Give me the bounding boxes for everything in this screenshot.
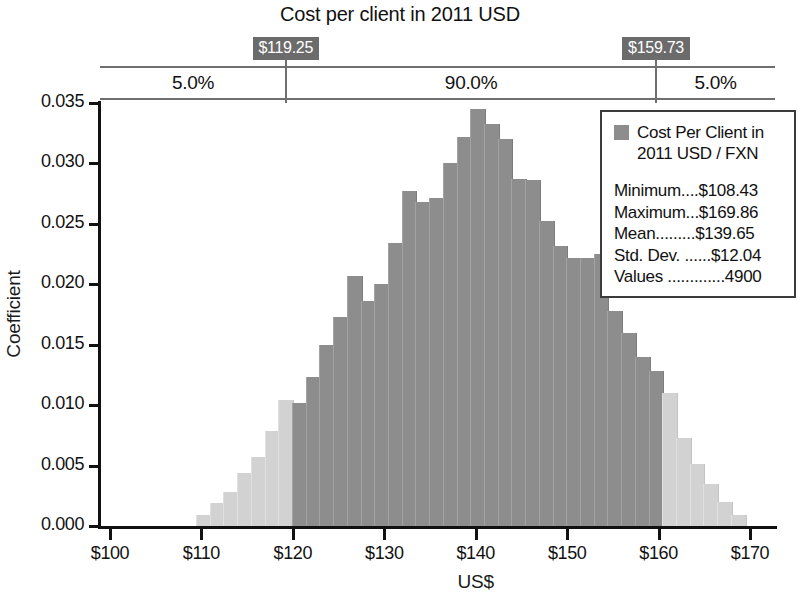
- legend-stat-row: Mean.........$139.65: [614, 223, 784, 245]
- y-axis-tick: [89, 404, 99, 407]
- x-axis-tick: [292, 529, 295, 540]
- x-axis-tick-label: $150: [522, 543, 612, 564]
- x-axis-tick-label: $170: [705, 543, 795, 564]
- x-axis-tick: [658, 529, 661, 540]
- y-axis-tick-label: 0.030: [0, 151, 84, 172]
- y-axis-tick: [89, 525, 99, 528]
- percentile-band-left: 5.0%: [100, 68, 286, 98]
- legend-stat-row: Maximum...$169.86: [614, 202, 784, 224]
- x-axis-tick-label: $110: [156, 543, 246, 564]
- percentile-band: 5.0% 90.0% 5.0%: [100, 66, 775, 100]
- x-axis-tick-label: $130: [339, 543, 429, 564]
- x-axis-tick-label: $120: [248, 543, 338, 564]
- y-axis-tick-label: 0.035: [0, 91, 84, 112]
- legend: Cost Per Client in 2011 USD / FXN Minimu…: [600, 110, 796, 298]
- y-axis-tick-label: 0.010: [0, 393, 84, 414]
- histogram-chart: Cost per client in 2011 USD $119.25 $159…: [0, 0, 800, 597]
- x-axis-label: US$: [416, 571, 536, 593]
- y-axis-tick: [89, 162, 99, 165]
- legend-series-entry: Cost Per Client in 2011 USD / FXN: [614, 122, 784, 164]
- legend-stat-row: Values .............4900: [614, 266, 784, 288]
- histogram-bar: [731, 515, 747, 526]
- x-axis-tick-label: $140: [431, 543, 521, 564]
- chart-title: Cost per client in 2011 USD: [0, 3, 800, 26]
- y-axis-label: Coefficient: [3, 254, 25, 374]
- y-axis-tick-label: 0.025: [0, 212, 84, 233]
- y-axis-tick-label: 0.005: [0, 454, 84, 475]
- legend-stat-row: Std. Dev. ......$12.04: [614, 245, 784, 267]
- x-axis-tick-label: $160: [614, 543, 704, 564]
- legend-statistics: Minimum....$108.43Maximum...$169.86Mean.…: [614, 180, 784, 288]
- x-axis-tick: [749, 529, 752, 540]
- x-axis-tick: [475, 529, 478, 540]
- y-axis-tick: [89, 283, 99, 286]
- x-axis-tick-label: $100: [65, 543, 155, 564]
- y-axis-tick: [89, 465, 99, 468]
- x-axis-tick: [109, 529, 112, 540]
- y-axis-tick: [89, 344, 99, 347]
- x-axis-tick: [383, 529, 386, 540]
- percentile-band-right: 5.0%: [656, 68, 775, 98]
- x-axis-tick: [200, 529, 203, 540]
- x-axis-tick: [566, 529, 569, 540]
- y-axis-tick-label: 0.000: [0, 514, 84, 535]
- y-axis-tick: [89, 102, 99, 105]
- legend-series-label: Cost Per Client in 2011 USD / FXN: [637, 122, 784, 164]
- percentile-band-center: 90.0%: [286, 68, 656, 98]
- y-axis-tick: [89, 223, 99, 226]
- legend-stat-row: Minimum....$108.43: [614, 180, 784, 202]
- legend-color-swatch: [614, 125, 629, 140]
